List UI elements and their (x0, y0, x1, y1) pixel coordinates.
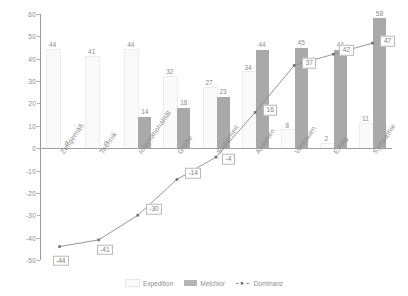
y-tick-label: 50 (6, 33, 36, 40)
y-tick-label: -10 (6, 167, 36, 174)
legend-label-expedition: Expedition (143, 280, 173, 287)
y-tick-label: 40 (6, 55, 36, 62)
dark-square-swatch-icon (184, 280, 197, 286)
y-tick-label: 20 (6, 100, 36, 107)
dominanz-value-label: 16 (263, 105, 277, 116)
dominanz-value-label: 47 (380, 36, 394, 47)
legend-label-melchior: Melchior (200, 280, 225, 287)
dominanz-value-label: 42 (339, 45, 353, 56)
dashed-line-marker-icon (236, 280, 251, 286)
dominanz-value-label: -30 (146, 204, 162, 215)
dominanz-value-label: -41 (97, 245, 113, 256)
dominanz-value-label: -4 (222, 154, 235, 165)
legend-item-dominanz: Dominanz (236, 280, 283, 287)
light-square-swatch-icon (125, 279, 140, 287)
plot-area: 6050403020100-10-20-30-40-50 44041044143… (40, 14, 392, 260)
dominanz-value-label: -44 (53, 255, 69, 266)
legend-item-melchior: Melchior (184, 280, 225, 287)
y-tick-label: 10 (6, 122, 36, 129)
dominanz-value-label: -14 (185, 168, 201, 179)
y-tick-label: -20 (6, 189, 36, 196)
chart-legend: Expedition Melchior Dominanz (0, 279, 408, 287)
y-tick-label: 0 (6, 145, 36, 152)
y-tick-label: -30 (6, 212, 36, 219)
chart-container: 6050403020100-10-20-30-40-50 44041044143… (0, 0, 408, 296)
y-tick-label: -40 (6, 234, 36, 241)
y-tick-label: -50 (6, 257, 36, 264)
legend-item-expedition: Expedition (125, 279, 173, 287)
legend-label-dominanz: Dominanz (254, 280, 283, 287)
y-tick-label: 60 (6, 11, 36, 18)
dominanz-value-label: 37 (302, 58, 316, 69)
y-tick-label: 30 (6, 78, 36, 85)
y-tick-mark (37, 260, 40, 261)
